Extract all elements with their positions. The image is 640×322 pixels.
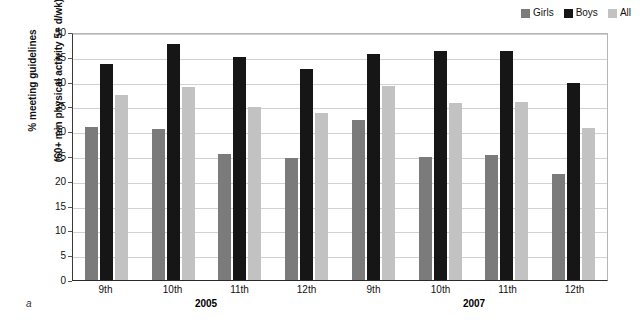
- bar-all-3: [315, 113, 328, 280]
- x-tick-label-6: 11th: [474, 284, 541, 298]
- y-tick-label-25: 25: [55, 152, 66, 162]
- bar-girls-5: [419, 157, 432, 280]
- x-tick-label-5: 10th: [407, 284, 474, 298]
- legend-item-boys: Boys: [564, 8, 598, 18]
- legend-swatch-all: [608, 9, 617, 18]
- bar-group: [340, 34, 407, 280]
- bar-boys-2: [233, 57, 246, 280]
- legend-item-girls: Girls: [521, 8, 554, 18]
- bar-all-0: [115, 95, 128, 280]
- bar-girls-3: [285, 158, 298, 280]
- y-tick-label-5: 5: [60, 251, 66, 261]
- legend-label-all: All: [620, 8, 631, 18]
- y-tick-label-50: 50: [55, 28, 66, 38]
- bar-boys-3: [300, 69, 313, 280]
- legend-label-girls: Girls: [533, 8, 554, 18]
- x-tick-label-7: 12th: [541, 284, 608, 298]
- legend-item-all: All: [608, 8, 631, 18]
- y-tick-label-35: 35: [55, 102, 66, 112]
- y-tick-label-15: 15: [55, 202, 66, 212]
- y-tick-label-40: 40: [55, 78, 66, 88]
- bar-all-2: [248, 107, 261, 280]
- bar-group: [73, 34, 140, 280]
- y-tick-mark-0: [68, 281, 72, 282]
- x-group-label-2005: 2005: [72, 298, 340, 312]
- bar-girls-1: [152, 129, 165, 280]
- plot-area: [72, 33, 608, 281]
- bar-group: [540, 34, 607, 280]
- bar-girls-6: [485, 155, 498, 280]
- bar-group: [207, 34, 274, 280]
- x-tick-label-4: 9th: [340, 284, 407, 298]
- bar-all-5: [449, 103, 462, 280]
- bar-boys-6: [500, 51, 513, 280]
- bar-girls-4: [352, 120, 365, 280]
- bar-group: [140, 34, 207, 280]
- y-tick-label-20: 20: [55, 177, 66, 187]
- panel-label: a: [26, 298, 32, 309]
- chart-figure: Girls Boys All % meeting guidelines (60+…: [0, 0, 640, 322]
- chart-legend: Girls Boys All: [516, 8, 631, 18]
- bar-groups: [73, 34, 607, 280]
- bar-boys-4: [367, 54, 380, 280]
- bar-all-7: [582, 128, 595, 280]
- bar-girls-0: [85, 127, 98, 280]
- legend-swatch-girls: [521, 9, 530, 18]
- bar-boys-5: [434, 51, 447, 280]
- bar-group: [273, 34, 340, 280]
- bar-all-1: [182, 87, 195, 280]
- bar-group: [474, 34, 541, 280]
- y-tick-label-10: 10: [55, 226, 66, 236]
- bar-all-4: [382, 86, 395, 280]
- bar-girls-2: [218, 154, 231, 280]
- bar-boys-7: [567, 83, 580, 280]
- x-tick-label-2: 11th: [206, 284, 273, 298]
- x-axis-tick-labels: 9th10th11th12th9th10th11th12th: [72, 284, 608, 298]
- x-tick-label-3: 12th: [273, 284, 340, 298]
- y-tick-label-45: 45: [55, 53, 66, 63]
- y-tick-label-0: 0: [60, 276, 66, 286]
- bar-all-6: [515, 102, 528, 280]
- legend-swatch-boys: [564, 9, 573, 18]
- x-group-label-2007: 2007: [340, 298, 608, 312]
- legend-label-boys: Boys: [576, 8, 598, 18]
- x-tick-label-1: 10th: [139, 284, 206, 298]
- x-tick-label-0: 9th: [72, 284, 139, 298]
- y-tick-label-30: 30: [55, 127, 66, 137]
- bar-boys-0: [100, 64, 113, 280]
- bar-girls-7: [552, 174, 565, 280]
- gridline-0: [73, 282, 607, 283]
- bar-boys-1: [167, 44, 180, 280]
- bar-group: [407, 34, 474, 280]
- y-axis-tick-labels: 50454035302520151050: [0, 33, 72, 281]
- x-axis-group-labels: 20052007: [72, 298, 608, 312]
